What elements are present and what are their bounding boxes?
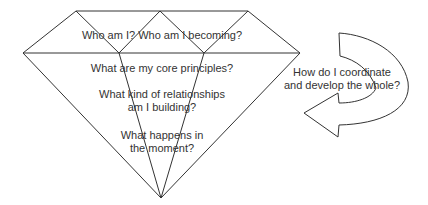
- moment-question-line1: What happens in: [121, 129, 204, 141]
- arrow-question-line1: How do I coordinate: [293, 66, 391, 78]
- relationships-question-line1: What kind of relationships: [99, 88, 225, 100]
- relationships-question-line2: am I building?: [128, 101, 197, 113]
- principles-question: What are my core principles?: [91, 62, 233, 74]
- moment-question-line2: the moment?: [130, 142, 194, 154]
- diamond-diagram: Who am I? Who am I becoming? What are my…: [0, 0, 428, 205]
- crown-question: Who am I? Who am I becoming?: [82, 29, 242, 41]
- arrow-question-line2: and develop the whole?: [284, 79, 400, 91]
